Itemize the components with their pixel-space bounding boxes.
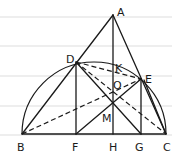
label-E: E <box>145 73 152 86</box>
label-F: F <box>72 141 78 154</box>
segment-EC-inner <box>144 80 166 134</box>
label-M: M <box>102 112 112 125</box>
label-A: A <box>117 6 125 19</box>
label-B: B <box>17 141 25 154</box>
label-G: G <box>135 141 144 154</box>
point-labels: A B C D E F H G K O M <box>17 6 171 154</box>
geometry-diagram: A B C D E F H G K O M <box>0 0 182 159</box>
label-C: C <box>163 141 171 154</box>
label-D: D <box>66 53 74 66</box>
label-K: K <box>115 62 123 75</box>
segment-AB <box>22 15 113 134</box>
label-O: O <box>113 79 122 92</box>
label-H: H <box>109 141 117 154</box>
